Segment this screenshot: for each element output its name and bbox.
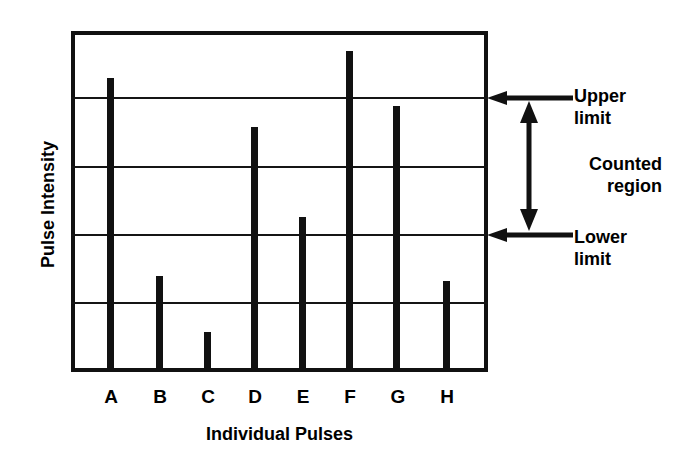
bar-g bbox=[393, 106, 400, 372]
gridline-2 bbox=[71, 166, 488, 168]
x-tick-label-f: F bbox=[335, 386, 365, 408]
bar-b bbox=[156, 276, 163, 372]
y-axis-title: Pulse Intensity bbox=[38, 95, 59, 315]
x-tick-label-b: B bbox=[145, 386, 175, 408]
x-tick-label-c: C bbox=[193, 386, 223, 408]
upper-limit-label: Upper limit bbox=[574, 85, 626, 129]
x-tick-label-d: D bbox=[240, 386, 270, 408]
counted-region-arrow bbox=[518, 101, 540, 231]
bar-a bbox=[107, 78, 114, 372]
x-axis-title: Individual Pulses bbox=[71, 424, 488, 445]
plot-area-frame bbox=[71, 31, 488, 372]
x-tick-label-e: E bbox=[288, 386, 318, 408]
pulse-intensity-chart: A B C D E F G H Individual Pulses Pulse … bbox=[0, 0, 677, 466]
bar-e bbox=[299, 217, 306, 372]
bar-h bbox=[443, 281, 450, 372]
x-tick-label-h: H bbox=[432, 386, 462, 408]
gridline-4 bbox=[71, 302, 488, 304]
lower-limit-label: Lower limit bbox=[574, 226, 627, 270]
counted-region-label: Counted region bbox=[574, 153, 662, 197]
gridline-upper-limit bbox=[71, 97, 488, 99]
bar-f bbox=[346, 51, 353, 372]
x-tick-label-a: A bbox=[96, 386, 126, 408]
bar-c bbox=[204, 332, 211, 372]
gridline-lower-limit bbox=[71, 234, 488, 236]
x-tick-label-g: G bbox=[383, 386, 413, 408]
bar-d bbox=[251, 127, 258, 372]
